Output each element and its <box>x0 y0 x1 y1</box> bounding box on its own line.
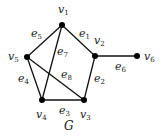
edge-label-e8: e8 <box>61 68 72 82</box>
node-v2 <box>92 53 98 59</box>
edge-label-e5: e5 <box>31 27 42 41</box>
node-v1 <box>59 22 65 28</box>
edge-label-e1: e1 <box>79 27 90 41</box>
node-label-v3: v3 <box>80 108 91 122</box>
node-v6 <box>134 53 140 59</box>
node-v4 <box>39 97 45 103</box>
node-label-v2: v2 <box>94 34 105 48</box>
node-label-v4: v4 <box>36 108 47 122</box>
edge-e8 <box>27 57 84 100</box>
graph-diagram: e1e2e3e4e5e6e7e8v1v2v3v4v5v6 G <box>0 0 162 140</box>
edge-label-e7: e7 <box>57 45 68 59</box>
node-v3 <box>81 97 87 103</box>
node-v5 <box>24 54 30 60</box>
edge-e7 <box>42 25 62 100</box>
edge-label-e3: e3 <box>59 104 70 118</box>
node-label-v5: v5 <box>8 50 19 64</box>
edge-label-e6: e6 <box>115 60 127 74</box>
labels: e1e2e3e4e5e6e7e8v1v2v3v4v5v6 <box>8 3 155 122</box>
node-label-v1: v1 <box>58 3 69 17</box>
edge-label-e2: e2 <box>94 72 105 86</box>
graph-title: G <box>64 119 74 133</box>
node-label-v6: v6 <box>144 50 155 64</box>
edge-label-e4: e4 <box>18 72 30 86</box>
